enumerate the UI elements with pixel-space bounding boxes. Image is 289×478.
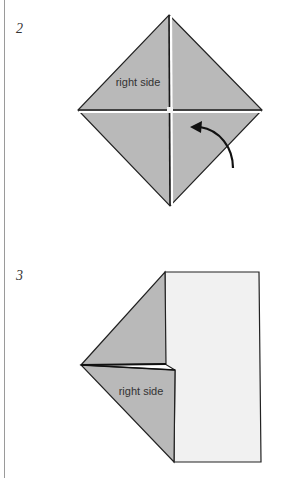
lower-flap [81, 365, 175, 462]
step-2-figure: right side [78, 15, 262, 206]
upper-flap [81, 272, 166, 365]
folded-rectangle [165, 272, 261, 462]
step-3-label: right side [119, 385, 164, 397]
step-3-figure: right side [81, 272, 261, 462]
upper-flap-edge [81, 364, 166, 365]
crease-center [167, 107, 173, 113]
diagram-canvas: right side right side [0, 0, 289, 478]
step-2-label: right side [116, 76, 161, 88]
